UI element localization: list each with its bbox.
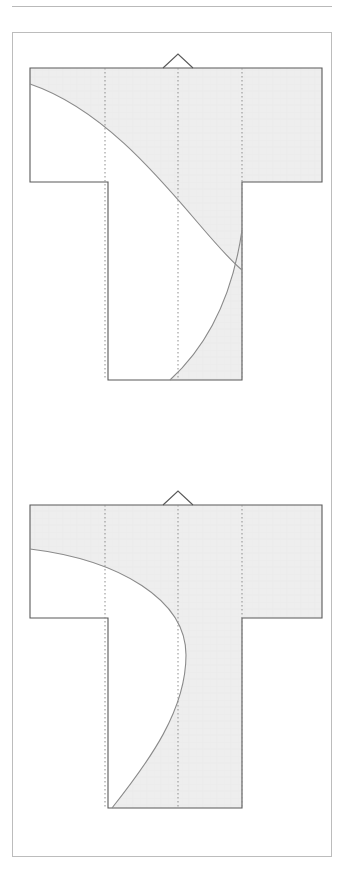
lower-neck-notch-icon [163,491,193,505]
figure-page [0,0,344,875]
upper-shaded-region-top [30,68,322,270]
lower-garment-pattern [30,491,322,808]
lower-shaded-region [30,505,322,808]
upper-garment-pattern [30,54,322,380]
pattern-diagram-canvas [0,0,344,875]
upper-neck-notch-icon [163,54,193,68]
